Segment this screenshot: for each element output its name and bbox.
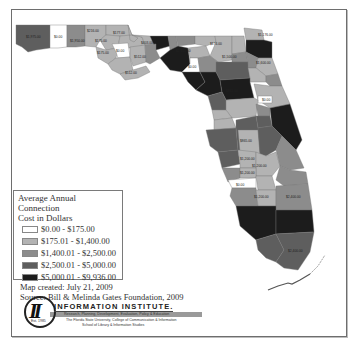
legend-label: $5,000.01 - $9,936.00 — [41, 272, 116, 282]
logo-line3: School of Library & Information Studies — [82, 323, 144, 327]
county-baker — [232, 36, 246, 54]
county-manatee — [218, 150, 240, 168]
county-pinellas-hillsborough — [206, 128, 238, 152]
legend-item-2: $175.01 - $1,400.00 — [22, 235, 118, 247]
county-sumter-lake — [226, 98, 258, 118]
county-madison — [176, 36, 195, 46]
svg-text:$512.00: $512.00 — [125, 71, 137, 75]
county-glades — [256, 176, 276, 190]
svg-text:$1,200.00: $1,200.00 — [240, 171, 255, 175]
legend-label: $175.01 - $1,400.00 — [41, 236, 110, 246]
svg-text:$0.00: $0.00 — [188, 65, 196, 69]
logo-line2: The Florida State University, College of… — [66, 318, 177, 322]
svg-text:$175.00: $175.00 — [97, 51, 109, 55]
florida-keys-east — [310, 255, 325, 274]
legend-swatch-white — [22, 226, 38, 233]
legend-swatch-light-gray — [22, 238, 38, 245]
logo-title: INFORMATION INSTITUTE. — [54, 302, 173, 312]
logo-est: Est. 1985 — [31, 319, 46, 323]
legend: Average Annual Connection Cost in Dollar… — [13, 190, 123, 280]
svg-text:$1,200.00: $1,200.00 — [254, 195, 269, 199]
legend-swatch-black — [22, 274, 38, 281]
svg-text:$216.00: $216.00 — [87, 29, 99, 33]
legend-swatch-mid-gray — [22, 250, 38, 257]
svg-text:$2,400.00: $2,400.00 — [286, 195, 301, 199]
svg-text:$0.00: $0.00 — [54, 35, 62, 39]
legend-label: $2,500.01 - $5,000.00 — [41, 260, 116, 270]
svg-text:$1,950.00: $1,950.00 — [70, 39, 85, 43]
svg-text:$174.00: $174.00 — [210, 42, 222, 46]
svg-text:$2,400.00: $2,400.00 — [288, 249, 303, 253]
legend-label: $1,400.01 - $2,500.00 — [41, 248, 116, 258]
svg-text:$865.00: $865.00 — [226, 89, 238, 93]
svg-text:$0.00: $0.00 — [236, 183, 244, 187]
svg-text:$865.00: $865.00 — [240, 139, 252, 143]
svg-text:$1,600.00: $1,600.00 — [256, 61, 271, 65]
svg-text:$0.00: $0.00 — [116, 49, 124, 53]
county-flagler — [266, 74, 282, 86]
map-created-note: Map created: July 21, 2009 — [20, 282, 113, 292]
svg-text:$1,200.00: $1,200.00 — [240, 157, 255, 161]
svg-text:$0.00: $0.00 — [262, 98, 270, 102]
svg-text:$403.00: $403.00 — [141, 41, 153, 45]
legend-item-4: $2,500.01 - $5,000.00 — [22, 259, 118, 271]
legend-swatch-dark-gray — [22, 262, 38, 269]
svg-text:$1,975.00: $1,975.00 — [26, 35, 41, 39]
legend-item-1: $0.00 - $175.00 — [22, 223, 118, 235]
svg-text:$512.00: $512.00 — [134, 55, 146, 59]
legend-label: $0.00 - $175.00 — [41, 224, 95, 234]
information-institute-logo: II Est. 1985 INFORMATION INSTITUTE. Rese… — [24, 296, 184, 334]
county-okaloosa — [67, 25, 85, 47]
florida-keys — [268, 274, 310, 290]
svg-text:$1,600.00: $1,600.00 — [176, 49, 191, 53]
legend-item-3: $1,400.01 - $2,500.00 — [22, 247, 118, 259]
svg-text:$1,200.00: $1,200.00 — [252, 164, 267, 168]
svg-text:$1,176.00: $1,176.00 — [258, 33, 273, 37]
svg-text:$175.00: $175.00 — [95, 39, 107, 43]
legend-title-line1: Average Annual Connection — [18, 193, 118, 213]
svg-text:$177.00: $177.00 — [113, 31, 125, 35]
legend-title-line2: Cost in Dollars — [18, 213, 118, 223]
county-suwannee — [188, 46, 210, 58]
logo-tagline: Research, Planning, Development, Evaluat… — [64, 312, 169, 316]
county-alachua — [216, 62, 250, 80]
svg-text:$1,500.00: $1,500.00 — [222, 55, 237, 59]
county-broward — [276, 210, 314, 234]
county-collier — [236, 206, 276, 240]
